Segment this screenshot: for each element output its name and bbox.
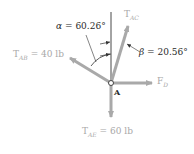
point-a-text: A [114,87,120,97]
t-ae-value: = 60 lb [97,126,133,136]
t-ac-label: TAC [124,10,139,21]
point-a-joint [109,81,114,86]
force-diagram: α = 60.26° β = 20.56° TAC TAB = 40 lb FD… [0,0,194,154]
t-ab-label: TAB = 40 lb [13,50,64,61]
alpha-leader-line [86,35,96,62]
t-ab-arrow [70,58,111,83]
t-ae-label: TAE = 60 lb [82,127,133,138]
alpha-symbol: α [56,21,62,31]
beta-equals: = [147,47,155,57]
f-d-sub: D [163,81,168,88]
beta-value: 20.56° [158,47,188,57]
t-ae-sub: AE [88,131,97,138]
beta-label: β = 20.56° [139,48,188,57]
t-ab-value: = 40 lb [28,49,64,59]
alpha-equals: = [65,21,73,31]
alpha-label: α = 60.26° [56,22,106,31]
alpha-value: 60.26° [75,21,105,31]
alpha-arc-tick-top [100,42,110,44]
t-ac-sub: AC [130,14,139,21]
point-a-label: A [114,88,120,96]
t-ac-arrow [111,26,128,83]
f-d-label: FD [157,77,168,88]
beta-symbol: β [139,47,144,57]
t-ab-sub: AB [19,54,28,61]
